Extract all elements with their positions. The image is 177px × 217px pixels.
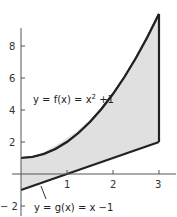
x-tick-label-1: 1 [64, 179, 70, 190]
y-tick-label-2: 2 [9, 137, 15, 148]
x-tick-label-2: 2 [110, 179, 116, 190]
g-leader-line [41, 186, 46, 199]
y-tick-label-6: 6 [9, 73, 15, 84]
x-tick-label-3: 3 [155, 179, 161, 190]
y-tick-label-4: 4 [9, 105, 15, 116]
f-label: y = f(x) = x2 +1 [33, 93, 114, 105]
g-label: y = g(x) = x −1 [34, 202, 113, 213]
y-tick-label-8: 8 [9, 41, 15, 52]
chart: 8 6 4 2 − 2 1 2 3 y = f(x) = x2 +1 y = g… [0, 0, 177, 217]
y-tick-label-m2: − 2 [0, 201, 18, 212]
